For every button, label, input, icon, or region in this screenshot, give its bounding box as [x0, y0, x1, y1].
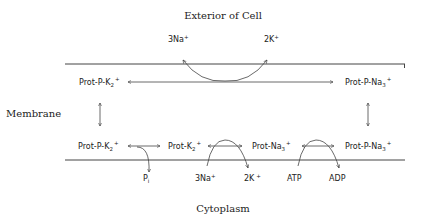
- top-prot-p-k2: Prot-P-K2+: [79, 76, 120, 88]
- membrane-label: Membrane: [6, 108, 61, 119]
- atp-adp-arc: [298, 140, 339, 168]
- cytoplasm-potassium-label: 2K+: [244, 173, 261, 183]
- cytoplasm-sodium-label: 3Na+: [195, 173, 216, 183]
- cytoplasm-title: Cytoplasm: [196, 203, 250, 214]
- exterior-of-cell-title: Exterior of Cell: [184, 10, 262, 21]
- phosphate-label: Pi: [143, 174, 150, 184]
- atp-label: ATP: [287, 174, 302, 183]
- exterior-sodium-label: 3Na+: [168, 34, 189, 44]
- bottom-prot-k2: Prot-K2+: [168, 140, 201, 152]
- exterior-potassium-label: 2K+: [264, 34, 279, 44]
- bottom-prot-p-na3: Prot-P-Na3+: [345, 140, 392, 152]
- sodium-potassium-pump-diagram: Exterior of Cell Cytoplasm Membrane 3Na+…: [0, 0, 422, 222]
- top-prot-p-na3: Prot-P-Na3+: [345, 76, 392, 88]
- bottom-prot-p-k2: Prot-P-K2+: [78, 140, 119, 152]
- adp-label: ADP: [329, 174, 346, 183]
- exterior-exchange-arc: [183, 60, 267, 81]
- bottom-prot-na3: Prot-Na3+: [252, 140, 291, 152]
- sodium-potassium-arc: [207, 140, 248, 168]
